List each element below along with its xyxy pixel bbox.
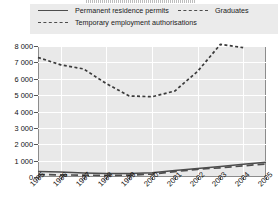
y-axis-tick-label: 8 000 — [15, 42, 34, 51]
chart-figure: Permanent residence permits Graduates Te… — [0, 0, 278, 212]
y-axis-tick-label: 5 000 — [15, 91, 34, 100]
x-axis: 1995199619971998199920002001200220032004… — [38, 177, 266, 212]
legend-swatch-solid-line-icon — [38, 6, 68, 15]
y-axis: 01 0002 0003 0004 0005 0006 0007 0008 00… — [0, 46, 38, 177]
y-axis-tick-label: 7 000 — [15, 58, 34, 67]
legend-swatch-dotted-line-icon — [178, 6, 208, 15]
legend-label-permanent-residence-permits: Permanent residence permits — [75, 6, 169, 15]
plot-area — [38, 46, 266, 177]
series-line-graduates — [38, 44, 243, 96]
y-axis-tick-label: 1 000 — [15, 156, 34, 165]
chart-legend: Permanent residence permits Graduates Te… — [30, 4, 278, 34]
data-series-layer — [38, 46, 266, 177]
y-axis-tick-label: 4 000 — [15, 107, 34, 116]
legend-swatch-dashed-line-icon — [38, 18, 68, 27]
legend-item-permanent-residence-permits[interactable]: Permanent residence permits — [38, 6, 169, 15]
y-axis-tick-label: 3 000 — [15, 123, 34, 132]
y-axis-tick-label: 6 000 — [15, 74, 34, 83]
top-cropped-strip — [86, 0, 196, 3]
legend-label-graduates: Graduates — [215, 6, 249, 15]
legend-item-temporary-employment-authorisations[interactable]: Temporary employment authorisations — [38, 18, 197, 27]
y-axis-tick-label: 2 000 — [15, 140, 34, 149]
legend-item-graduates[interactable]: Graduates — [178, 6, 249, 15]
legend-label-temporary-employment-authorisations: Temporary employment authorisations — [75, 18, 197, 27]
